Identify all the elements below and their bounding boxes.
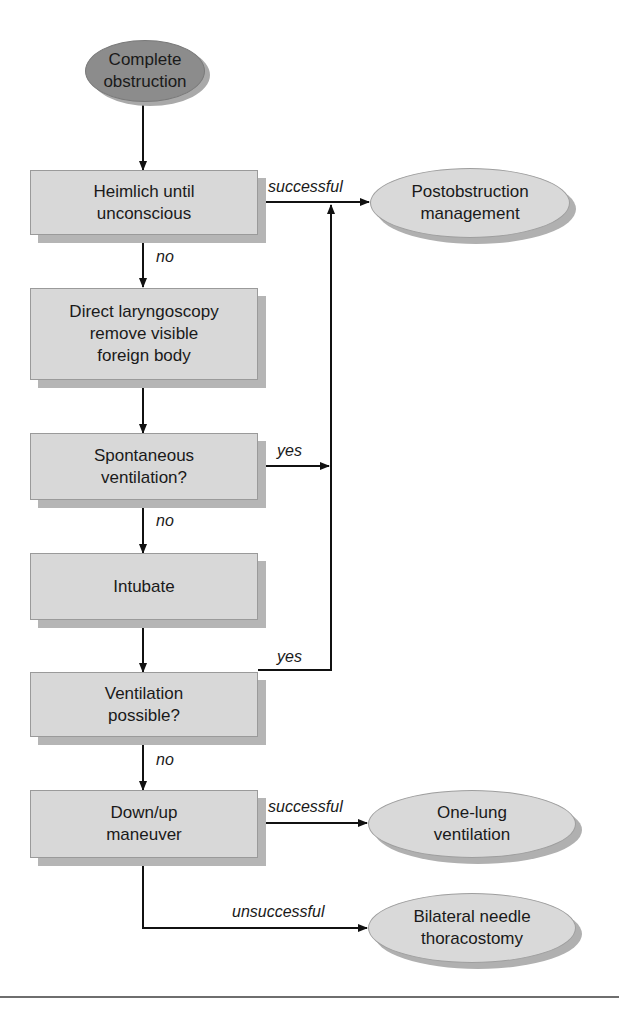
node-spontaneous-ventilation: Spontaneous ventilation?: [30, 433, 258, 500]
node-heimlich: Heimlich until unconscious: [30, 170, 258, 235]
node-ventilation-possible: Ventilation possible?: [30, 672, 258, 737]
node-label: Ventilation possible?: [105, 683, 183, 727]
edge-label-spontaneous-yes: yes: [277, 442, 302, 460]
node-down-up-maneuver: Down/up maneuver: [30, 790, 258, 858]
edge-label-ventilation-no: no: [156, 751, 174, 769]
connector-lines: [0, 0, 619, 1010]
node-label: Direct laryngoscopy remove visible forei…: [69, 301, 218, 367]
node-label: Intubate: [113, 576, 174, 598]
node-one-lung-ventilation: One-lung ventilation: [368, 790, 576, 858]
edge-label-heimlich-no: no: [156, 248, 174, 266]
node-label: Postobstruction management: [411, 181, 528, 225]
node-intubate: Intubate: [30, 553, 258, 620]
edge-label-spontaneous-no: no: [156, 512, 174, 530]
node-bilateral-needle-thoracostomy: Bilateral needle thoracostomy: [368, 893, 576, 963]
node-postobstruction-management: Postobstruction management: [370, 168, 570, 238]
node-label: Bilateral needle thoracostomy: [413, 906, 530, 950]
edge-label-heimlich-successful: successful: [268, 178, 343, 196]
node-label: Spontaneous ventilation?: [94, 445, 194, 489]
node-complete-obstruction: Complete obstruction: [85, 40, 205, 102]
node-label: One-lung ventilation: [434, 802, 511, 846]
node-label: Down/up maneuver: [106, 802, 182, 846]
node-label: Complete obstruction: [103, 49, 186, 93]
edge-label-downup-unsuccessful: unsuccessful: [232, 903, 325, 921]
node-label: Heimlich until unconscious: [93, 181, 194, 225]
edge-label-ventilation-yes: yes: [277, 648, 302, 666]
edge-label-downup-successful: successful: [268, 798, 343, 816]
node-direct-laryngoscopy: Direct laryngoscopy remove visible forei…: [30, 288, 258, 380]
bottom-divider: [0, 996, 619, 998]
